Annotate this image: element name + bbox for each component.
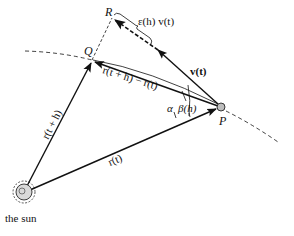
orbit-path-right bbox=[226, 111, 278, 142]
label-error: ε(h) v(t) bbox=[138, 15, 174, 28]
label-P: P bbox=[218, 114, 227, 128]
label-R: R bbox=[104, 5, 113, 19]
orbit-velocity-diagram: R Q P ε(h) v(t) v(t) r(t + h) − r(t) r(t… bbox=[0, 0, 294, 236]
label-Q: Q bbox=[84, 44, 93, 58]
angle-beta-arc bbox=[182, 91, 186, 101]
label-beta: β(h) bbox=[177, 102, 197, 115]
planet-icon bbox=[217, 103, 225, 111]
label-chord: r(t + h) − r(t) bbox=[101, 63, 160, 92]
orbit-path-left bbox=[25, 51, 92, 60]
label-velocity: v(t) bbox=[190, 65, 207, 78]
label-r-t: r(t) bbox=[106, 151, 124, 169]
label-sun: the sun bbox=[5, 212, 37, 224]
angle-tick-1 bbox=[174, 112, 176, 118]
qr-dashed-line bbox=[92, 18, 112, 60]
label-r-t-plus-h: r(t + h) bbox=[39, 107, 65, 141]
label-alpha: α bbox=[167, 102, 173, 114]
sun-icon bbox=[13, 181, 35, 203]
